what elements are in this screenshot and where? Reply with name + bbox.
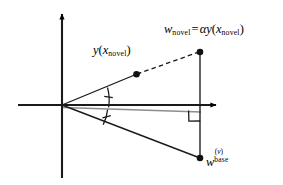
label-w-novel-close-paren: ) bbox=[240, 22, 244, 36]
label-y-arg-subscript: novel bbox=[108, 49, 126, 58]
angle-tick-upper bbox=[104, 96, 113, 97]
label-y-close-paren: ) bbox=[127, 43, 131, 57]
label-w-base-subscript: base bbox=[214, 156, 228, 164]
point-w-base bbox=[197, 155, 204, 162]
vector-geometry-figure: y(xnovel) wnovel=αy(xnovel) w (v) base bbox=[0, 0, 283, 185]
bisector-line bbox=[63, 108, 201, 113]
point-w-novel bbox=[197, 49, 204, 56]
label-w-novel-subscript: novel bbox=[172, 28, 190, 37]
point-y-xnovel bbox=[133, 71, 140, 78]
label-w-base: w (v) base bbox=[206, 153, 235, 168]
label-y-of-x-novel: y(xnovel) bbox=[93, 44, 131, 58]
label-w-novel-equals: = bbox=[191, 22, 200, 36]
label-w-novel-arg-subscript: novel bbox=[221, 28, 239, 37]
upper-ray-solid-segment bbox=[62, 74, 137, 105]
upper-ray-dashed-segment bbox=[137, 52, 199, 74]
label-w-base-var: w bbox=[206, 155, 214, 169]
label-w-base-script-cluster: (v) base bbox=[214, 153, 235, 166]
lower-ray-segment bbox=[62, 105, 200, 158]
label-w-novel-equation: wnovel=αy(xnovel) bbox=[164, 23, 244, 37]
